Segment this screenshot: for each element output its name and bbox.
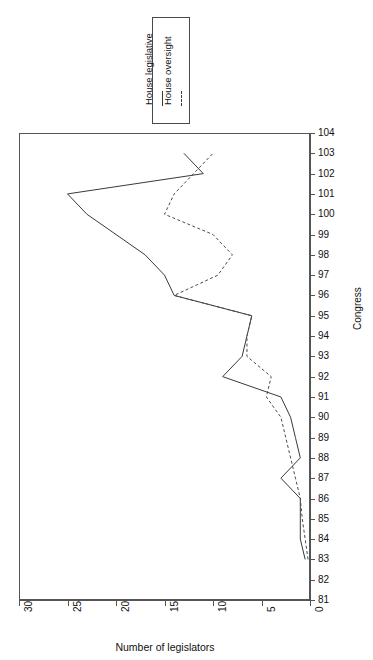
congress-axis-line bbox=[310, 133, 311, 600]
congress-tick-87 bbox=[310, 478, 315, 479]
congress-tick-84 bbox=[310, 539, 315, 540]
congress-tick-label-95: 95 bbox=[318, 311, 329, 321]
congress-tick-95 bbox=[310, 316, 315, 317]
congress-tick-93 bbox=[310, 356, 315, 357]
congress-tick-label-100: 100 bbox=[318, 209, 335, 219]
congress-tick-99 bbox=[310, 235, 315, 236]
legislators-axis-title: Number of legislators bbox=[0, 641, 330, 653]
congress-tick-88 bbox=[310, 458, 315, 459]
legislators-tick-label-30: 30 bbox=[24, 601, 34, 612]
congress-tick-label-87: 87 bbox=[318, 473, 329, 483]
congress-tick-101 bbox=[310, 194, 315, 195]
legend-entry-house-oversight: House oversight bbox=[172, 18, 191, 125]
legislators-tick-label-15: 15 bbox=[170, 601, 180, 612]
congress-tick-label-88: 88 bbox=[318, 453, 329, 463]
legislators-tick-label-20: 20 bbox=[121, 601, 131, 612]
chart-legend: House legislative House oversight bbox=[152, 17, 190, 124]
legislators-tick-30 bbox=[19, 600, 20, 606]
congress-tick-label-98: 98 bbox=[318, 250, 329, 260]
congress-tick-104 bbox=[310, 133, 315, 134]
congress-tick-97 bbox=[310, 275, 315, 276]
congress-tick-label-97: 97 bbox=[318, 270, 329, 280]
legend-label-house-oversight: House oversight bbox=[163, 36, 173, 105]
congress-tick-label-93: 93 bbox=[318, 351, 329, 361]
congress-tick-103 bbox=[310, 153, 315, 154]
congress-tick-94 bbox=[310, 336, 315, 337]
legislators-tick-label-0: 0 bbox=[315, 606, 325, 612]
congress-tick-100 bbox=[310, 214, 315, 215]
congress-tick-89 bbox=[310, 438, 315, 439]
congress-tick-label-104: 104 bbox=[318, 128, 335, 138]
congress-tick-86 bbox=[310, 499, 315, 500]
congress-tick-92 bbox=[310, 377, 315, 378]
congress-tick-label-96: 96 bbox=[318, 290, 329, 300]
legend-label-house-legislative: House legislative bbox=[144, 33, 154, 105]
legislators-tick-10 bbox=[213, 600, 214, 606]
congress-tick-label-102: 102 bbox=[318, 169, 335, 179]
congress-tick-label-82: 82 bbox=[318, 575, 329, 585]
series-line-house-legislative bbox=[68, 153, 306, 559]
congress-axis-title: Congress bbox=[352, 287, 363, 330]
legislators-tick-20 bbox=[116, 600, 117, 606]
congress-tick-label-84: 84 bbox=[318, 534, 329, 544]
congress-tick-label-83: 83 bbox=[318, 554, 329, 564]
congress-tick-83 bbox=[310, 559, 315, 560]
congress-tick-label-101: 101 bbox=[318, 189, 335, 199]
congress-tick-label-91: 91 bbox=[318, 392, 329, 402]
chart-figure: House legislative House oversight 818283… bbox=[0, 0, 373, 660]
congress-tick-label-81: 81 bbox=[318, 595, 329, 605]
congress-tick-label-103: 103 bbox=[318, 148, 335, 158]
congress-tick-85 bbox=[310, 519, 315, 520]
congress-tick-90 bbox=[310, 417, 315, 418]
congress-tick-82 bbox=[310, 580, 315, 581]
congress-tick-98 bbox=[310, 255, 315, 256]
legislators-tick-5 bbox=[262, 600, 263, 606]
congress-tick-label-99: 99 bbox=[318, 230, 329, 240]
plot-series-canvas bbox=[19, 133, 310, 600]
congress-tick-label-90: 90 bbox=[318, 412, 329, 422]
congress-tick-label-89: 89 bbox=[318, 433, 329, 443]
legislators-tick-label-5: 5 bbox=[267, 606, 277, 612]
congress-tick-label-92: 92 bbox=[318, 372, 329, 382]
legend-key-dashed-line-icon bbox=[181, 91, 182, 106]
congress-tick-102 bbox=[310, 174, 315, 175]
legislators-tick-15 bbox=[165, 600, 166, 606]
legislators-tick-label-25: 25 bbox=[73, 601, 83, 612]
congress-tick-label-85: 85 bbox=[318, 514, 329, 524]
congress-tick-91 bbox=[310, 397, 315, 398]
legislators-tick-0 bbox=[310, 600, 311, 606]
congress-tick-96 bbox=[310, 295, 315, 296]
legislators-tick-25 bbox=[68, 600, 69, 606]
congress-tick-label-94: 94 bbox=[318, 331, 329, 341]
congress-tick-label-86: 86 bbox=[318, 494, 329, 504]
series-line-house-oversight bbox=[165, 153, 309, 559]
legislators-tick-label-10: 10 bbox=[218, 601, 228, 612]
